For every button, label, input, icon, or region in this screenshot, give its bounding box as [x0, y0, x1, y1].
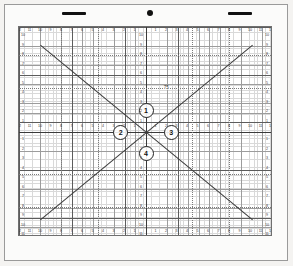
x-tick-bottom-3: 9: [50, 230, 52, 234]
center-registration-dot: [147, 10, 153, 16]
x-tick-bottom-20: 8: [228, 230, 230, 234]
x-tick-axis-24: 12: [269, 125, 272, 129]
y-tick-axis-17: 6: [140, 186, 142, 190]
x-tick-top-18: 6: [207, 29, 209, 33]
y-tick-axis-14: 3: [140, 158, 142, 162]
x-tick-bottom-23: 11: [259, 230, 263, 234]
x-tick-top-10: 2: [123, 29, 125, 33]
y-tick-left-17: 6: [22, 186, 24, 190]
registration-bar: [4, 4, 288, 26]
y-tick-axis-9: 2: [140, 110, 142, 114]
y-tick-left-5: 6: [22, 72, 24, 76]
y-tick-right-9: 2: [266, 110, 268, 114]
x-tick-top-17: 5: [197, 29, 199, 33]
y-tick-right-3: 8: [266, 54, 268, 58]
x-tick-axis-13: 1: [155, 125, 157, 129]
worksheet-page: 1234 75 12121211111110101099988877766655…: [0, 0, 293, 266]
y-tick-axis-21: 10: [139, 224, 143, 228]
y-tick-axis-15: 4: [140, 167, 142, 171]
y-tick-right-8: 3: [266, 101, 268, 105]
x-tick-axis-3: 9: [50, 125, 52, 129]
x-tick-top-6: 6: [81, 29, 83, 33]
x-tick-bottom-14: 2: [165, 230, 167, 234]
y-tick-axis-5: 6: [140, 72, 142, 76]
y-tick-right-21: 10: [265, 224, 269, 228]
x-tick-top-4: 8: [60, 29, 62, 33]
y-tick-right-5: 6: [266, 72, 268, 76]
x-tick-axis-17: 5: [197, 125, 199, 129]
x-tick-top-24: 12: [269, 29, 272, 33]
x-tick-axis-20: 8: [228, 125, 230, 129]
x-tick-top-16: 4: [186, 29, 188, 33]
y-tick-axis-8: 3: [140, 101, 142, 105]
x-tick-top-19: 7: [218, 29, 220, 33]
y-tick-left-9: 2: [22, 110, 24, 114]
x-tick-top-20: 8: [228, 29, 230, 33]
guide-h-mid-upper: [19, 88, 271, 89]
x-tick-axis-0: 12: [18, 125, 21, 129]
x-tick-top-15: 3: [176, 29, 178, 33]
y-tick-right-2: 9: [266, 44, 268, 48]
y-tick-right-12: 1: [266, 139, 268, 143]
x-tick-bottom-17: 5: [197, 230, 199, 234]
y-tick-left-16: 5: [22, 176, 24, 180]
x-tick-axis-22: 10: [248, 125, 252, 129]
x-tick-bottom-7: 5: [92, 230, 94, 234]
x-tick-top-2: 10: [38, 29, 42, 33]
y-tick-axis-6: 5: [140, 82, 142, 86]
y-tick-right-7: 4: [266, 91, 268, 95]
x-tick-top-1: 11: [28, 29, 32, 33]
x-tick-top-11: 1: [134, 29, 136, 33]
x-tick-axis-9: 3: [113, 125, 115, 129]
x-tick-bottom-9: 3: [113, 230, 115, 234]
y-tick-left-13: 2: [22, 148, 24, 152]
y-tick-axis-13: 2: [140, 148, 142, 152]
coordinate-grid[interactable]: 1234 75 12121211111110101099988877766655…: [18, 26, 272, 236]
y-tick-left-12: 1: [22, 139, 24, 143]
y-tick-left-20: 9: [22, 214, 24, 218]
y-tick-right-10: 1: [266, 120, 268, 124]
x-tick-axis-18: 6: [207, 125, 209, 129]
x-tick-top-22: 10: [248, 29, 252, 33]
x-tick-top-7: 5: [92, 29, 94, 33]
y-tick-axis-22: 11: [139, 233, 143, 236]
x-tick-axis-6: 6: [81, 125, 83, 129]
y-tick-right-17: 6: [266, 186, 268, 190]
x-tick-top-8: 4: [102, 29, 104, 33]
x-tick-bottom-24: 12: [269, 230, 272, 234]
x-tick-axis-16: 4: [186, 125, 188, 129]
right-alignment-bar: [228, 12, 252, 15]
x-tick-bottom-13: 1: [155, 230, 157, 234]
x-tick-bottom-16: 4: [186, 230, 188, 234]
grid-surface: 1234 75 12121211111110101099988877766655…: [19, 27, 271, 235]
y-tick-left-6: 5: [22, 82, 24, 86]
x-tick-axis-10: 2: [123, 125, 125, 129]
y-tick-axis-3: 8: [140, 54, 142, 58]
x-tick-bottom-21: 9: [239, 230, 241, 234]
y-tick-right-14: 3: [266, 158, 268, 162]
x-tick-axis-5: 7: [71, 125, 73, 129]
y-tick-right-6: 5: [266, 82, 268, 86]
x-tick-axis-2: 10: [38, 125, 42, 129]
x-tick-bottom-1: 11: [28, 230, 32, 234]
y-tick-right-22: 11: [265, 233, 269, 236]
x-tick-top-21: 9: [239, 29, 241, 33]
x-tick-axis-4: 8: [60, 125, 62, 129]
x-tick-bottom-18: 6: [207, 230, 209, 234]
x-tick-bottom-4: 8: [60, 230, 62, 234]
y-tick-right-20: 9: [266, 214, 268, 218]
y-tick-right-4: 7: [266, 63, 268, 67]
x-tick-axis-7: 5: [92, 125, 94, 129]
y-tick-axis-16: 5: [140, 176, 142, 180]
x-tick-bottom-19: 7: [218, 230, 220, 234]
marker-left[interactable]: 2: [113, 125, 128, 140]
x-tick-top-0: 12: [18, 29, 21, 33]
y-tick-axis-2: 9: [140, 44, 142, 48]
y-tick-axis-1: 10: [139, 35, 143, 39]
guide-v-right: [192, 27, 193, 235]
y-tick-axis-10: 1: [140, 120, 142, 124]
x-tick-axis-11: 1: [134, 125, 136, 129]
x-tick-bottom-8: 4: [102, 230, 104, 234]
annotation-upper-right: 75: [163, 86, 170, 91]
x-tick-bottom-15: 3: [176, 230, 178, 234]
